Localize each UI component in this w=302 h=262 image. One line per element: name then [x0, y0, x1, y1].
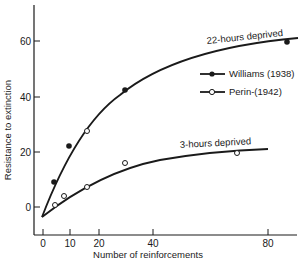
y-ticks: 60 40 20 0 [20, 36, 40, 213]
y-tick-0: 0 [25, 202, 31, 213]
curve-3-hours [42, 149, 268, 217]
legend: Williams (1938) Perin-(1942) [200, 68, 294, 97]
data-point [123, 161, 128, 166]
x-axis-label: Number of reinforcements [93, 249, 203, 260]
data-point [53, 203, 58, 208]
data-point [284, 39, 290, 45]
data-point [235, 151, 240, 156]
x-tick-0: 0 [40, 238, 46, 249]
data-point [66, 143, 72, 149]
y-tick-40: 40 [20, 92, 32, 103]
x-ticks: 0 10 20 40 80 [40, 229, 274, 249]
x-tick-40: 40 [147, 238, 159, 249]
filled-circle-icon [209, 71, 214, 76]
legend-label-perin: Perin-(1942) [229, 86, 282, 97]
legend-item-williams: Williams (1938) [200, 68, 294, 79]
y-tick-60: 60 [20, 36, 32, 47]
data-point [62, 194, 67, 199]
y-axis-label: Resistance to extinction [2, 80, 13, 180]
chart: 60 40 20 0 0 10 20 40 80 Number of reinf… [0, 0, 302, 262]
x-tick-20: 20 [93, 238, 105, 249]
data-point [122, 87, 128, 93]
series-williams [51, 39, 290, 185]
data-point [51, 179, 57, 185]
data-point [85, 185, 90, 190]
legend-item-perin: Perin-(1942) [200, 86, 282, 97]
curve-label-3-hours: 3-hours deprived [180, 135, 252, 150]
legend-label-williams: Williams (1938) [229, 68, 294, 79]
x-tick-80: 80 [262, 238, 274, 249]
open-circle-icon [209, 89, 214, 94]
curve-label-22-hours: 22-hours deprived [206, 27, 283, 46]
y-tick-20: 20 [20, 147, 32, 158]
x-tick-10: 10 [64, 238, 76, 249]
data-point [85, 129, 90, 134]
